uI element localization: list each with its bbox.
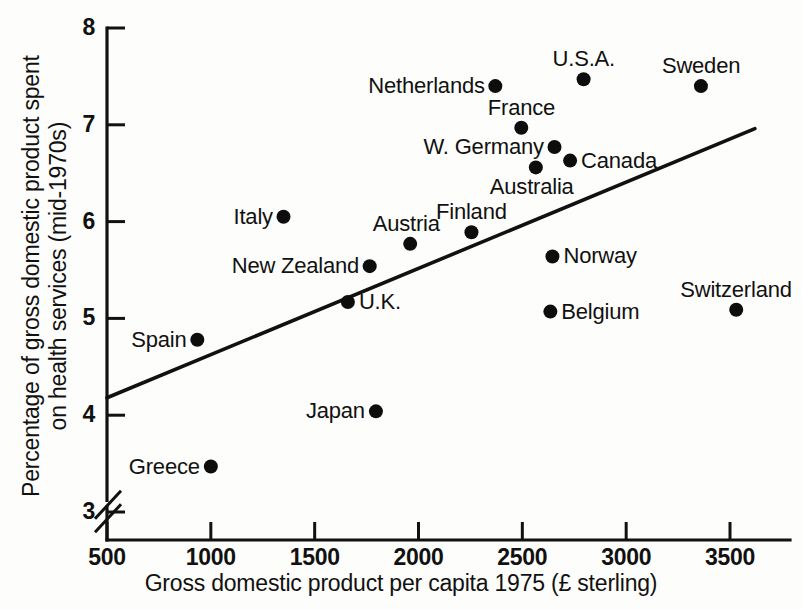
point-label: Netherlands	[368, 75, 484, 97]
scatter-chart: 345678500100015002000250030003500 Greece…	[0, 0, 802, 609]
data-point	[563, 154, 577, 168]
x-tick-label: 2000	[374, 544, 464, 571]
data-point	[369, 404, 383, 418]
point-label: Belgium	[561, 301, 639, 323]
ticks-group	[107, 28, 730, 540]
x-tick-label: 1000	[166, 544, 256, 571]
point-label: Japan	[306, 400, 365, 422]
data-point	[694, 79, 708, 93]
y-axis-title-line1: Percentage of gross domestic product spe…	[18, 55, 44, 497]
data-point	[277, 210, 291, 224]
data-point	[577, 72, 591, 86]
point-label: Greece	[129, 456, 200, 478]
point-label: W. Germany	[424, 136, 544, 158]
data-point	[190, 333, 204, 347]
x-tick-label: 2500	[477, 544, 567, 571]
point-label: Spain	[131, 329, 186, 351]
x-tick-label: 3000	[581, 544, 671, 571]
data-point	[464, 225, 478, 239]
data-point	[548, 140, 562, 154]
data-point	[543, 305, 557, 319]
trend-line-segment	[107, 129, 755, 398]
y-axis-title-line2: on health services (mid-1970s)	[45, 122, 71, 430]
point-label: U.K.	[359, 291, 401, 313]
x-axis-title: Gross domestic product per capita 1975 (…	[0, 570, 802, 597]
point-label: Sweden	[662, 55, 740, 77]
point-label: France	[488, 97, 555, 119]
point-label: New Zealand	[232, 255, 359, 277]
point-label: Switzerland	[680, 279, 792, 301]
x-tick-label: 3500	[685, 544, 775, 571]
data-point	[729, 303, 743, 317]
data-point	[488, 79, 502, 93]
y-axis-title: Percentage of gross domestic product spe…	[18, 16, 72, 536]
data-point	[545, 249, 559, 263]
trend-line	[107, 129, 755, 398]
data-point	[514, 121, 528, 135]
data-point	[204, 460, 218, 474]
point-label: Canada	[581, 150, 657, 172]
data-point	[403, 237, 417, 251]
data-point	[341, 295, 355, 309]
data-point	[529, 160, 543, 174]
point-label: Australia	[490, 176, 574, 198]
point-label: Norway	[563, 245, 636, 267]
point-label: U.S.A.	[553, 48, 615, 70]
point-label: Italy	[234, 206, 273, 228]
point-label: Finland	[436, 201, 507, 223]
data-point	[363, 259, 377, 273]
x-tick-label: 1500	[270, 544, 360, 571]
x-tick-label: 500	[62, 544, 152, 571]
point-label: Austria	[373, 213, 440, 235]
